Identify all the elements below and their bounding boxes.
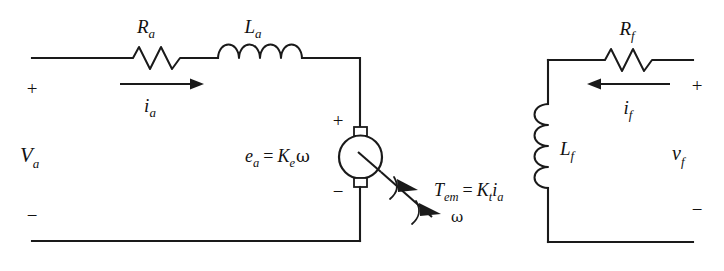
- label-va: Va: [20, 143, 40, 171]
- resistor-icon-rf: [600, 49, 658, 71]
- label-va-sub: a: [33, 156, 40, 171]
- eqn-kt-letter: K: [476, 180, 490, 200]
- circuit-diagram: Ra La ia Va + − + − ea=Keω Tem=Ktia: [0, 0, 724, 271]
- label-rf-letter: R: [618, 18, 631, 39]
- label-ia-sub: a: [149, 105, 156, 120]
- label-if: if: [624, 97, 635, 122]
- label-shaft-omega: ω: [451, 208, 463, 226]
- label-ra-sub: a: [149, 26, 156, 41]
- eqn-tem-sub: em: [444, 190, 459, 204]
- eqn-ea-sub: a: [253, 156, 259, 170]
- inductor-vertical-icon-lf: [535, 104, 549, 188]
- shaft-speed-arrow-head: [419, 203, 441, 216]
- shaft-torque-arrow-head: [397, 179, 418, 192]
- armature-terminal-minus: −: [27, 205, 38, 226]
- armature-right-wire: [302, 58, 360, 131]
- current-arrow-left-head: [587, 79, 601, 90]
- label-lf-sub: f: [571, 148, 577, 163]
- current-arrow-right-head: [190, 79, 204, 90]
- dc-motor-icon: [339, 136, 382, 179]
- label-vf-letter: v: [672, 142, 681, 164]
- field-terminal-plus: +: [692, 75, 703, 96]
- label-la-sub: a: [255, 26, 262, 41]
- motor-terminal-minus: −: [333, 181, 344, 202]
- eqn-ke-letter: K: [276, 146, 290, 166]
- inductor-icon-la: [218, 45, 302, 59]
- eqn-ia-sub: a: [497, 190, 503, 204]
- label-la: La: [243, 16, 262, 41]
- label-lf: Lf: [559, 138, 577, 163]
- label-lf-letter: L: [559, 138, 571, 159]
- brush-bottom-icon: [354, 178, 367, 187]
- shaft-speed-tick: [412, 201, 419, 224]
- label-vf-sub: f: [681, 154, 687, 169]
- label-rf-sub: f: [631, 28, 637, 43]
- eqn-ea-letter: e: [245, 146, 253, 166]
- resistor-icon-ra: [128, 47, 186, 69]
- label-ra: Ra: [136, 16, 156, 41]
- circuit-svg: Ra La ia Va + − + − ea=Keω Tem=Ktia: [0, 0, 724, 271]
- equation-torque: Tem=Ktia: [434, 180, 504, 204]
- label-ra-letter: R: [136, 16, 149, 37]
- eqn-torque-equals: =: [463, 180, 473, 200]
- field-terminal-minus: −: [692, 199, 703, 220]
- motor-terminal-plus: +: [333, 110, 344, 131]
- label-rf: Rf: [618, 18, 637, 43]
- label-if-sub: f: [629, 107, 635, 122]
- eqn-equals: =: [263, 146, 273, 166]
- label-vf: vf: [672, 142, 687, 169]
- equation-back-emf: ea=Keω: [245, 146, 310, 170]
- armature-terminal-plus: +: [27, 78, 38, 99]
- eqn-omega: ω: [296, 146, 310, 166]
- label-la-letter: L: [243, 16, 255, 37]
- label-ia: ia: [144, 95, 156, 120]
- eqn-ke-sub: e: [289, 156, 295, 170]
